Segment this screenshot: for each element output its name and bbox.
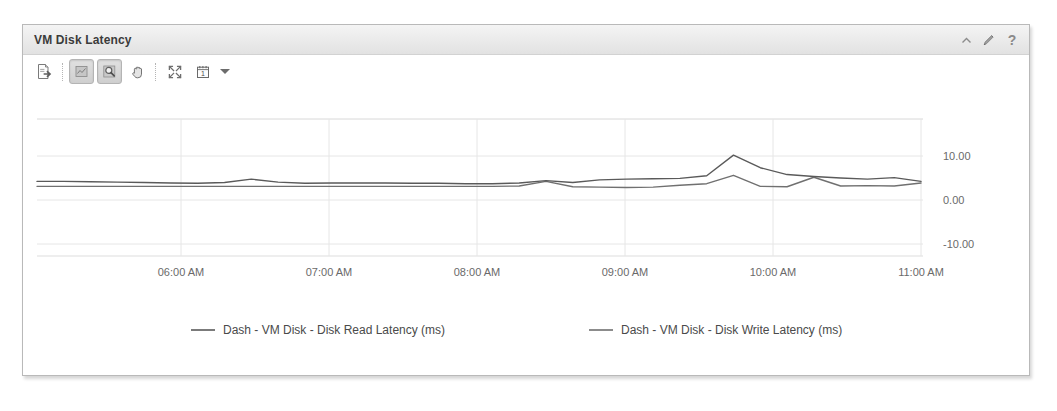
latency-line-chart: 10.00 0.00 -10.00 06:00 AM 07:00 AM 08:0…	[23, 88, 1029, 375]
zoom-magnifier-icon	[102, 64, 117, 79]
expand-arrows-icon	[167, 64, 183, 80]
vm-disk-latency-panel: VM Disk Latency ?	[22, 24, 1030, 376]
export-button[interactable]	[32, 59, 57, 84]
panel-header-tools: ?	[959, 25, 1019, 55]
zoom-mode-button[interactable]	[97, 59, 122, 84]
chart-toolbar: 1	[23, 55, 1029, 88]
x-tick-label: 06:00 AM	[158, 266, 204, 278]
pan-mode-button[interactable]	[69, 59, 94, 84]
legend-label-write: Dash - VM Disk - Disk Write Latency (ms)	[621, 323, 842, 337]
collapse-icon[interactable]	[959, 33, 973, 48]
date-range-button[interactable]: 1	[190, 59, 215, 84]
toolbar-separator-2	[155, 63, 157, 81]
toolbar-separator-1	[62, 63, 64, 81]
date-range-dropdown-caret[interactable]	[220, 69, 230, 74]
calendar-icon: 1	[195, 64, 211, 80]
x-tick-label: 08:00 AM	[454, 266, 500, 278]
fit-to-screen-button[interactable]	[162, 59, 187, 84]
chart-background	[23, 88, 1029, 375]
panel-header: VM Disk Latency ?	[23, 25, 1029, 55]
x-tick-label: 10:00 AM	[750, 266, 796, 278]
edit-pencil-icon[interactable]	[982, 33, 996, 48]
page-title: VM Disk Latency	[34, 33, 132, 47]
x-tick-label: 07:00 AM	[306, 266, 352, 278]
export-icon	[36, 63, 53, 80]
y-tick-label: 0.00	[943, 194, 964, 206]
help-icon[interactable]: ?	[1005, 33, 1019, 48]
x-tick-label: 11:00 AM	[898, 266, 944, 278]
y-tick-label: -10.00	[943, 238, 974, 250]
hand-tool-button[interactable]	[125, 59, 150, 84]
chart-area: 10.00 0.00 -10.00 06:00 AM 07:00 AM 08:0…	[23, 88, 1029, 375]
pan-select-icon	[74, 64, 89, 79]
y-tick-label: 10.00	[943, 150, 971, 162]
screenshot-root: VM Disk Latency ?	[0, 0, 1057, 411]
hand-icon	[130, 64, 146, 80]
legend-label-read: Dash - VM Disk - Disk Read Latency (ms)	[223, 323, 445, 337]
svg-text:1: 1	[201, 70, 205, 77]
x-tick-label: 09:00 AM	[602, 266, 648, 278]
